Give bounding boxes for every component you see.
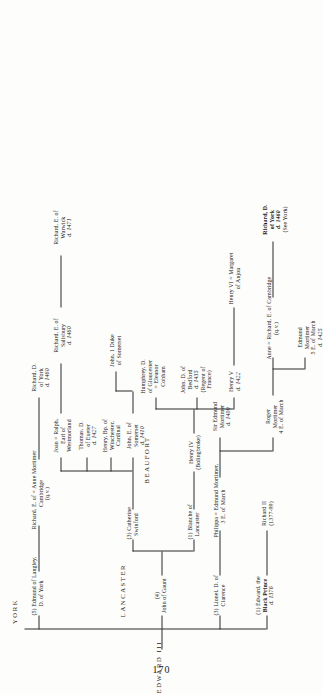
node-roger-line-2: 4 E. of March <box>277 395 284 437</box>
node-warwick-line-0: Richard, E. of <box>52 199 59 255</box>
house-label-york-text: YORK <box>10 589 17 633</box>
node-cambridge-line-1: Cambridge <box>37 457 44 529</box>
node-richard-ii-line-0: Richard II <box>260 496 267 530</box>
node-black-prince-line-2: d. 1376 <box>267 575 274 615</box>
connector-gaunt-wives-spine <box>132 550 193 551</box>
node-richard-york-line-2: d. 1460 <box>43 357 50 397</box>
node-richard-d-york: Richard, D. of York d. 1460 <box>30 357 50 397</box>
node-john-e-somerset: John, E. of Somerset d. 1410 <box>125 413 145 457</box>
node-edmund-langley-line-0: (5) Edmund of Langley, <box>30 571 37 615</box>
connector-cambridge-richardyork <box>38 397 39 459</box>
node-humphrey-line-1: of Gloucester <box>146 355 153 397</box>
connector-gen1-lionel <box>219 615 220 629</box>
node-henry-iv-line-1: (Bolingbroke) <box>194 433 201 471</box>
node-blanche-of-lancaster: (1) Blanche of Lancaster <box>186 509 199 539</box>
node-richard-ii-line-1: (1377-99) <box>267 496 274 530</box>
book-page: EDWARD III LANCASTER YORK BEAUFORT (1) E… <box>0 0 323 695</box>
node-henry-iv-line-0: Henry IV <box>187 433 194 471</box>
connector-bedford-stub <box>196 397 197 409</box>
node-richard-cambridge: Richard, E. of = Anne Mortimer Cambridge… <box>30 457 50 529</box>
node-cambridge-line-2: (q.v.) <box>43 457 50 529</box>
node-thomas-exeter-line-0: Thomas, D. <box>77 413 84 457</box>
connector-langley-cambridge <box>38 525 39 571</box>
node-john-duke-line-0: John, 1 Duke <box>108 329 115 371</box>
connector-roger-children-spine <box>272 368 304 369</box>
connector-joan-ralph-stub <box>60 457 61 471</box>
connector-somerset-duke <box>115 371 116 391</box>
node-edmund-langley: (5) Edmund of Langley, D. of York <box>30 571 43 615</box>
node-sir-edmund-mortimer: Sir Edmund Mortimer d. 1409 <box>211 395 231 437</box>
node-henry-winchester-line-2: Cardinal <box>114 413 121 457</box>
node-black-prince-line-0: (1) Edward, the <box>254 575 261 615</box>
node-richard-york-line-1: of York <box>37 357 44 397</box>
node-humphrey-gloucester: Humphrey, D. of Gloucester = Eleanor Cob… <box>139 355 165 397</box>
node-henry-winchester-line-0: Henry, Bp. of <box>101 413 108 457</box>
connector-henryiv-children <box>193 409 194 433</box>
node-black-prince: (1) Edward, the Black Prince d. 1376 <box>254 575 274 615</box>
connector-beaufort-spine <box>60 470 132 471</box>
node-henry-winchester-line-1: Winchester, <box>108 413 115 457</box>
connector-mortimer-children-spine <box>219 450 272 451</box>
connector-catherine-beauforts <box>132 471 133 509</box>
node-henry-v-line-1: d. 1422 <box>234 365 241 397</box>
connector-gen1-black-prince <box>266 615 267 629</box>
node-bedford-line-1: Bedford <box>186 361 193 397</box>
node-humphrey-line-3: Cobham <box>159 355 166 397</box>
connector-joan-salisbury <box>60 363 61 413</box>
node-edmund5-line-3: d. 1425 <box>316 315 323 359</box>
node-joan-ralph-line-2: Westmorland <box>65 413 72 457</box>
node-catherine-line-0: (3) Catherine <box>125 509 132 539</box>
node-henry-iv: Henry IV (Bolingbroke) <box>187 433 200 471</box>
node-thomas-exeter-line-1: of Exeter <box>84 413 91 457</box>
node-richard-york2-line-1: of York <box>268 197 275 241</box>
node-sir-edmund-line-0: Sir Edmund <box>211 395 218 437</box>
node-anne-line-0: Anne = Richard, E. of Cambridge <box>265 297 272 359</box>
node-john-of-gaunt-line-0: (4) <box>153 575 160 615</box>
node-sir-edmund-line-2: d. 1409 <box>224 395 231 437</box>
node-john-somerset-line-1: Somerset <box>132 413 139 457</box>
node-cambridge-line-0: Richard, E. of = Anne Mortimer <box>30 457 37 529</box>
node-lionel-line-1: Clarence <box>219 575 226 615</box>
node-philippa-edmund-mortimer: Philippa = Edmund Mortimer, 3 E. of Marc… <box>212 475 225 537</box>
node-humphrey-line-2: = Eleanor <box>152 355 159 397</box>
house-label-lancaster-text: LANCASTER <box>118 561 125 619</box>
node-salisbury-line-0: Richard, E. of <box>52 307 59 363</box>
connector-thomas-exeter-stub <box>86 457 87 471</box>
connector-blackprince-richardii <box>266 530 267 575</box>
connector-gen1-gaunt <box>161 615 162 629</box>
node-richard-york2-line-2: d. 1460 <box>274 197 281 241</box>
connector-blanche-stub <box>193 539 194 551</box>
connector-somerset-down <box>132 391 133 413</box>
connector-gen1-spine <box>38 628 266 629</box>
genealogy-chart: EDWARD III LANCASTER YORK BEAUFORT (1) E… <box>0 0 323 695</box>
connector-blanche-henryiv <box>193 471 194 509</box>
node-sir-edmund-line-1: Mortimer <box>218 395 225 437</box>
node-roger-line-1: Mortimer <box>271 395 278 437</box>
node-henry-vi: Henry VI = Margaret of Anjou <box>227 249 240 307</box>
node-henry-v: Henry V d. 1422 <box>227 365 240 397</box>
node-bedford-line-2: d. 1435 <box>192 361 199 397</box>
node-richard-york2-line-3: (See York) <box>281 197 288 241</box>
node-john-somerset-line-2: d. 1410 <box>138 413 145 457</box>
node-bedford-line-4: France) <box>205 361 212 397</box>
node-richard-warwick: Richard, E. of Warwick d. 1471 <box>52 199 72 255</box>
node-roger-mortimer: Roger Mortimer 4 E. of March <box>264 395 284 437</box>
node-warwick-line-1: Warwick <box>59 199 66 255</box>
node-edmund5-line-2: 5 E. of March <box>309 315 316 359</box>
connector-gaunt-descent <box>161 551 162 575</box>
node-catherine-swinford: (3) Catherine Swinford <box>125 509 138 539</box>
connector-roger-mortimer <box>272 437 273 451</box>
node-richard-york-line-0: Richard, D. <box>30 357 37 397</box>
node-anne-richard-cambridge: Anne = Richard, E. of Cambridge (q.v.) <box>265 297 278 359</box>
node-philippa-line-0: Philippa = Edmund Mortimer, <box>212 475 219 537</box>
node-joan-ralph-line-0: Joan = Ralph, <box>52 413 59 457</box>
connector-john-somerset-stub <box>132 457 133 471</box>
node-catherine-line-1: Swinford <box>132 509 139 539</box>
node-richard-d-york-seeyork: Richard, D. of York d. 1460 (See York) <box>261 197 287 241</box>
connector-philippa-children <box>219 451 220 477</box>
node-john-bedford: John, D. of Bedford d. 1435 (Regent of F… <box>179 361 212 397</box>
node-salisbury-line-1: Salisbury <box>59 307 66 363</box>
node-lionel: (3) Lionel, D. of Clarence <box>212 575 225 615</box>
node-john-duke-line-1: of Somerset <box>115 329 122 371</box>
node-joan-ralph: Joan = Ralph, Earl of Westmorland <box>52 413 72 457</box>
